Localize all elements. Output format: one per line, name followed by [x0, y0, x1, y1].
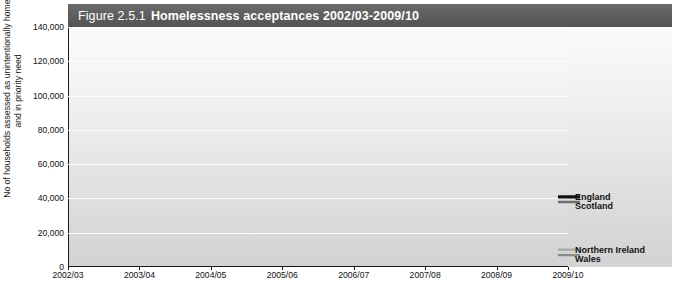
y-tick-label: 40,000 [6, 193, 64, 203]
legend-panel [568, 27, 672, 267]
x-tick-label: 2007/08 [410, 270, 441, 280]
x-tick-label: 2005/06 [267, 270, 298, 280]
x-axis-ticks: 2002/032003/042004/052005/062006/072007/… [68, 270, 568, 286]
legend-label-scotland[interactable]: Scotland [575, 201, 613, 211]
y-axis-ticks: 020,00040,00060,00080,000100,000120,0001… [4, 27, 64, 267]
figure-container: Figure 2.5.1 Homelessness acceptances 20… [0, 0, 678, 292]
legend-connector-lines [558, 27, 580, 267]
x-tick-label: 2002/03 [52, 270, 83, 280]
page-title: Homelessness acceptances 2002/03-2009/10 [151, 9, 419, 23]
plot-area [68, 27, 568, 267]
y-tick-label: 120,000 [6, 56, 64, 66]
x-tick-label: 2006/07 [338, 270, 369, 280]
figure-title-bar: Figure 2.5.1 Homelessness acceptances 20… [68, 4, 672, 27]
y-tick-label: 100,000 [6, 91, 64, 101]
y-tick-label: 20,000 [6, 228, 64, 238]
y-tick-label: 140,000 [6, 22, 64, 32]
x-tick-label: 2003/04 [124, 270, 155, 280]
x-tick-label: 2004/05 [195, 270, 226, 280]
y-tick-label: 60,000 [6, 159, 64, 169]
figure-number: Figure 2.5.1 [78, 9, 146, 23]
x-tick-label: 2008/09 [481, 270, 512, 280]
legend-label-wales[interactable]: Wales [575, 254, 601, 264]
y-tick-label: 80,000 [6, 125, 64, 135]
plot-background [68, 27, 568, 267]
x-tick-label: 2009/10 [552, 270, 583, 280]
